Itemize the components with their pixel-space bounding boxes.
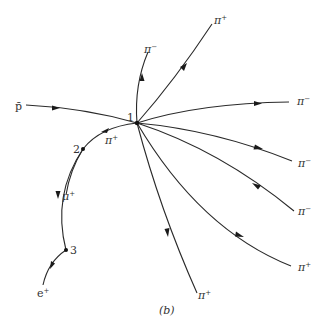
vertex-2 [81,147,85,151]
track-pi-plus-down [137,123,197,293]
vertex-1 [135,121,139,125]
figure-caption: (b) [159,304,175,317]
arrow-icon [52,106,60,111]
track-antiproton [26,105,137,123]
arrow-icon [235,232,244,238]
arrow-icon [254,145,264,150]
label-pi-minus-right-3: π− [297,205,311,218]
arrow-icon [252,183,261,190]
track-pi-minus-right [137,102,289,123]
label-pi-plus-lower-right: π+ [297,261,311,274]
track-pi-plus-lower-right [137,123,291,266]
label-pi-minus-right-2: π− [297,157,311,170]
label-antiproton: p̄ [15,100,22,113]
arrow-icon [165,228,170,237]
vertex-label-3: 3 [70,244,77,257]
arrow-icon [56,191,61,199]
vertex-label-2: 2 [73,143,80,156]
arrow-icon [101,128,109,133]
label-pi-plus-upper-right: π+ [213,14,227,27]
label-pi-plus-down: π+ [197,289,211,302]
vertex-label-1: 1 [127,111,134,124]
label-positron: e+ [37,287,50,300]
arrow-icon [50,261,55,269]
track-pi-minus-right-2 [137,123,292,161]
vertex-3 [64,248,68,252]
label-pi-minus-right: π− [296,95,310,108]
label-pi-minus-up: π− [143,43,157,56]
label-pi-plus-left: π+ [104,134,118,147]
annihilation-diagram: 1 2 3 p̄ π− π+ π− π− π− π+ π+ π+ μ+ e+ (… [0,0,321,330]
track-positron [43,250,66,285]
label-muon: μ+ [62,190,75,203]
arrow-icon [254,101,262,106]
